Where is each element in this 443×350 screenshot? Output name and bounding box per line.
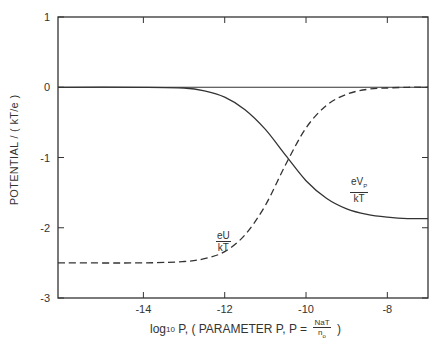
x-tick-label: -10 <box>298 303 314 315</box>
y-axis-label: POTENTIAL / ( kT/e ) <box>8 95 20 206</box>
y-tick-label: -2 <box>40 222 50 234</box>
plot-frame <box>58 17 428 298</box>
data-curves <box>58 87 428 263</box>
x-label-frac-num: NaT <box>313 318 330 328</box>
x-tick-label: -12 <box>217 303 233 315</box>
vp-numerator: eVP <box>350 176 368 193</box>
y-tick-label: 0 <box>44 81 50 93</box>
vp-num-text: eV <box>351 176 363 187</box>
eu-kt-curve <box>58 87 428 263</box>
chart-plot: 10-1-2-3-14-12-10-8 <box>0 0 443 350</box>
curve-label-u: eU kT <box>216 230 231 253</box>
x-label-frac-den: no <box>318 328 326 341</box>
u-denominator: kT <box>218 242 229 253</box>
y-tick-label: 1 <box>44 11 50 23</box>
x-tick-label: -14 <box>135 303 151 315</box>
u-numerator: eU <box>216 230 231 242</box>
x-label-suffix: ) <box>334 322 341 336</box>
x-label-fraction: NaT no <box>313 318 330 341</box>
curve-label-vp: eVP kT <box>350 176 368 204</box>
evp-kt-curve <box>58 87 428 219</box>
x-label-sub: 10 <box>166 325 175 334</box>
plot-border <box>58 17 428 298</box>
x-label-log: log <box>150 322 166 336</box>
vp-num-sub: P <box>363 183 367 189</box>
x-label-mid: P, ( PARAMETER P, P = <box>175 322 311 336</box>
axis-ticks: 10-1-2-3-14-12-10-8 <box>40 11 428 315</box>
x-axis-label: log10 P, ( PARAMETER P, P = NaT no ) <box>150 318 341 341</box>
y-tick-label: -3 <box>40 292 50 304</box>
y-tick-label: -1 <box>40 152 50 164</box>
x-tick-label: -8 <box>382 303 392 315</box>
x-label-frac-den-sub: o <box>323 333 326 339</box>
vp-denominator: kT <box>354 193 365 204</box>
